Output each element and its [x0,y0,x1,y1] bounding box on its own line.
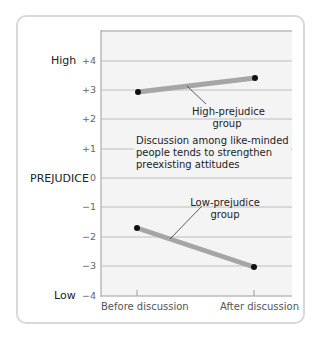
y-tick: −1 [74,201,96,213]
y-tick: +2 [74,113,96,125]
point-high-after [252,75,258,81]
y-tick: −4 [74,290,96,302]
y-tick: +1 [74,143,96,155]
x-label-after: After discussion [220,301,299,313]
point-low-before [134,225,140,231]
y-tick: −3 [74,260,96,272]
y-tick: 0 [74,172,96,184]
annotation-high-group: High-prejudice group [192,106,262,130]
point-low-after [251,264,257,270]
x-label-before: Before discussion [101,301,189,313]
y-label-high: High [51,54,76,67]
y-tick: +3 [74,84,96,96]
y-label-low: Low [54,289,76,302]
point-high-before [135,89,141,95]
annotation-low-group: Low-prejudice group [190,197,260,221]
annotation-note: Discussion among like-minded people tend… [134,135,291,171]
y-tick: +4 [74,55,96,67]
y-tick: −2 [74,231,96,243]
